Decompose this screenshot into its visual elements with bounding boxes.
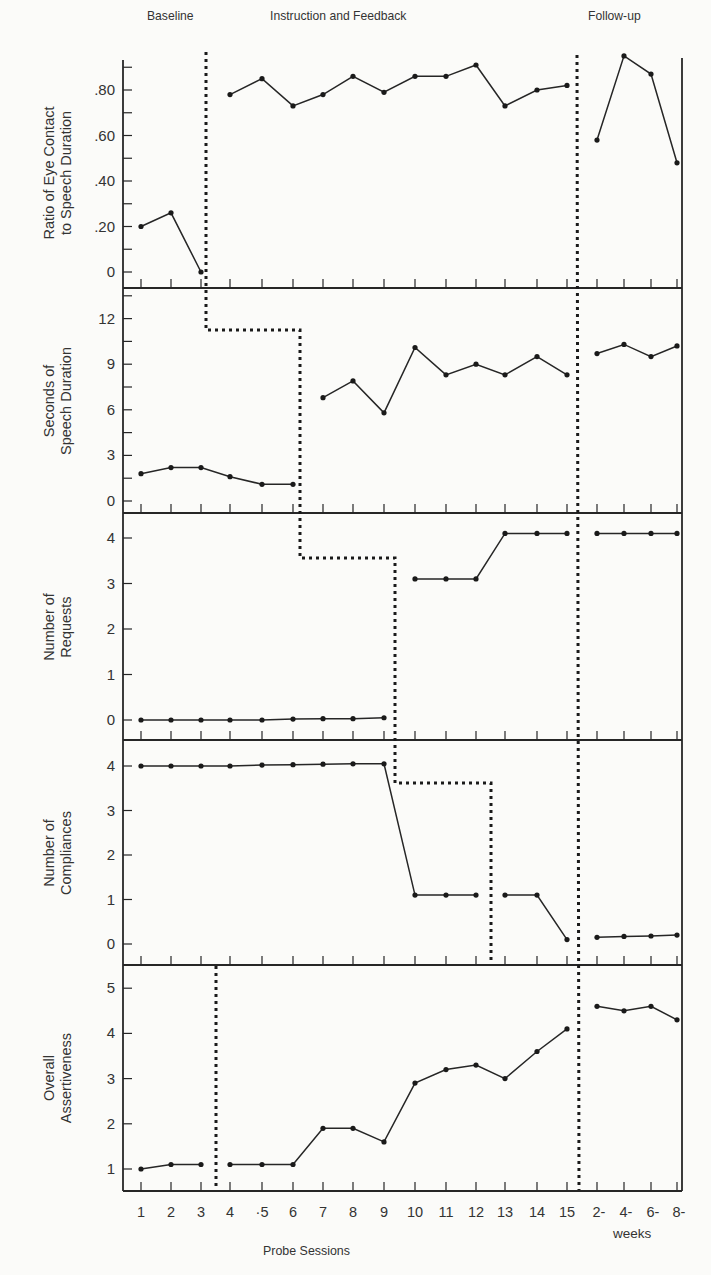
- y-tick-label: 0: [81, 935, 115, 952]
- data-point: [674, 160, 679, 165]
- data-point: [320, 1126, 325, 1131]
- data-point: [674, 933, 679, 938]
- data-point: [198, 717, 203, 722]
- series-1-segment-2: [230, 65, 567, 106]
- data-point: [412, 576, 417, 581]
- data-point: [594, 1004, 599, 1009]
- data-point: [564, 83, 569, 88]
- x-tick-label: 2-: [584, 1204, 614, 1220]
- panel-3-y-axis-label: Number ofRequests: [41, 527, 75, 727]
- x-tick-label: 1: [126, 1204, 156, 1220]
- x-tick-label: ·5: [247, 1204, 277, 1220]
- data-point: [594, 935, 599, 940]
- data-point: [594, 351, 599, 356]
- data-point: [564, 531, 569, 536]
- y-tick-label: 2: [81, 846, 115, 863]
- y-tick-label: 1: [81, 666, 115, 683]
- y-tick-label: 1: [81, 1160, 115, 1177]
- followup-phase-line: [577, 55, 579, 1190]
- data-point: [473, 1062, 478, 1067]
- series-4-segment-1: [141, 764, 476, 895]
- panel-5-y-axis-label: OverallAssertiveness: [41, 978, 75, 1178]
- data-point: [621, 934, 626, 939]
- data-point: [350, 1126, 355, 1131]
- data-point: [534, 354, 539, 359]
- data-point: [534, 892, 539, 897]
- data-point: [227, 763, 232, 768]
- data-point: [138, 471, 143, 476]
- phase-label-followup: Follow-up: [588, 8, 641, 23]
- data-point: [674, 1017, 679, 1022]
- data-point: [168, 210, 173, 215]
- data-point: [534, 87, 539, 92]
- data-point: [594, 137, 599, 142]
- data-point: [648, 71, 653, 76]
- data-point: [502, 372, 507, 377]
- y-tick-label: 9: [81, 355, 115, 372]
- data-point: [290, 1162, 295, 1167]
- data-point: [621, 342, 626, 347]
- x-tick-label: 7: [308, 1204, 338, 1220]
- y-tick-label: 5: [81, 979, 115, 996]
- data-point: [138, 1166, 143, 1171]
- y-tick-label: 12: [81, 310, 115, 327]
- data-point: [350, 74, 355, 79]
- data-point: [138, 224, 143, 229]
- x-axis-title: Probe Sessions: [263, 1243, 350, 1258]
- x-tick-label: 11: [431, 1204, 461, 1220]
- data-point: [290, 716, 295, 721]
- x-tick-label: 6: [278, 1204, 308, 1220]
- y-tick-label: 4: [81, 1024, 115, 1041]
- y-tick-label: .80: [81, 81, 115, 98]
- data-point: [259, 763, 264, 768]
- data-point: [138, 763, 143, 768]
- panel-4-y-axis-label: Number ofCompliances: [41, 753, 75, 953]
- x-tick-label: 8-: [664, 1204, 694, 1220]
- data-point: [168, 1162, 173, 1167]
- data-point: [621, 1008, 626, 1013]
- data-point: [290, 762, 295, 767]
- data-point: [443, 576, 448, 581]
- data-point: [412, 345, 417, 350]
- data-point: [648, 933, 653, 938]
- y-tick-label: 3: [81, 575, 115, 592]
- data-point: [227, 717, 232, 722]
- data-point: [381, 715, 386, 720]
- series-1-segment-1: [141, 213, 201, 272]
- data-point: [259, 717, 264, 722]
- x-tick-label: 4: [215, 1204, 245, 1220]
- data-point: [412, 1081, 417, 1086]
- x-sublabel-weeks: weeks: [613, 1226, 651, 1241]
- series-3-segment-2: [415, 533, 567, 579]
- data-point: [259, 482, 264, 487]
- data-point: [138, 717, 143, 722]
- data-point: [564, 1026, 569, 1031]
- data-point: [648, 354, 653, 359]
- series-2-segment-3: [597, 344, 677, 356]
- y-tick-label: 0: [81, 711, 115, 728]
- x-tick-label: 10: [400, 1204, 430, 1220]
- y-tick-label: .40: [81, 172, 115, 189]
- panel-1-y-axis-label: Ratio of Eye Contactto Speech Duration: [41, 73, 75, 273]
- data-point: [198, 1162, 203, 1167]
- data-point: [564, 372, 569, 377]
- x-tick-label: 9: [369, 1204, 399, 1220]
- data-point: [412, 74, 417, 79]
- data-point: [227, 92, 232, 97]
- data-point: [320, 762, 325, 767]
- data-point: [259, 1162, 264, 1167]
- series-2-segment-1: [141, 468, 293, 485]
- y-tick-label: 2: [81, 620, 115, 637]
- data-point: [320, 92, 325, 97]
- data-point: [674, 343, 679, 348]
- data-point: [502, 1076, 507, 1081]
- y-tick-label: .20: [81, 218, 115, 235]
- data-point: [473, 362, 478, 367]
- data-point: [227, 1162, 232, 1167]
- x-tick-label: 2: [156, 1204, 186, 1220]
- data-point: [443, 74, 448, 79]
- data-point: [564, 937, 569, 942]
- data-point: [320, 716, 325, 721]
- y-tick-label: 6: [81, 401, 115, 418]
- y-tick-label: .60: [81, 127, 115, 144]
